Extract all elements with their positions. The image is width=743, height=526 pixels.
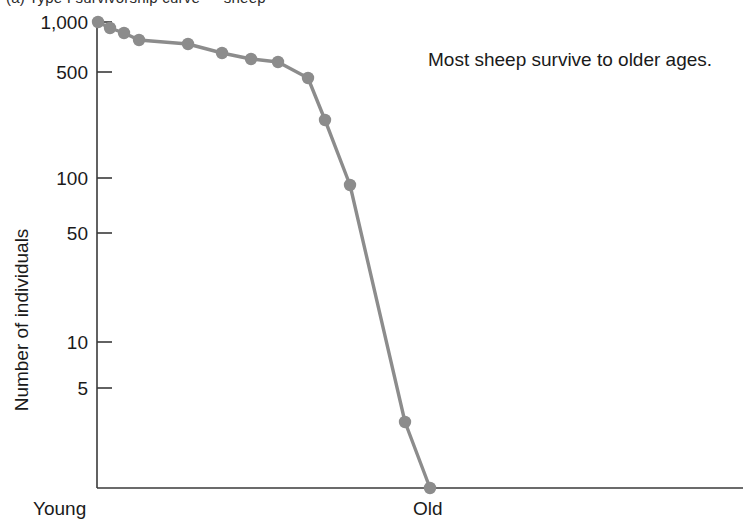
data-point: [118, 27, 130, 39]
survivorship-curve-figure: (a) Type I survivorship curve — sheep 1,…: [0, 0, 743, 526]
data-point: [424, 482, 436, 494]
data-point: [319, 114, 331, 126]
y-axis-title: Number of individuals: [11, 229, 32, 412]
x-label-young: Young: [33, 498, 86, 519]
y-tick-label-50: 50: [67, 223, 88, 244]
survivorship-data-markers: [92, 16, 436, 494]
data-point: [216, 47, 228, 59]
data-point: [104, 22, 116, 34]
data-point: [399, 416, 411, 428]
data-point: [133, 34, 145, 46]
data-point: [344, 179, 356, 191]
y-tick-label-10: 10: [67, 332, 88, 353]
y-tick-label-100: 100: [56, 168, 88, 189]
y-tick-label-5: 5: [77, 378, 88, 399]
data-point: [245, 53, 257, 65]
y-tick-marks: [97, 22, 112, 388]
chart-annotation: Most sheep survive to older ages.: [428, 49, 712, 70]
data-point: [182, 38, 194, 50]
x-label-old: Old: [413, 498, 443, 519]
survivorship-data-line: [98, 22, 430, 488]
data-point: [302, 72, 314, 84]
data-point: [272, 56, 284, 68]
chart-plot-area: 1,000 500 100 50 10 5 Number of individu…: [0, 0, 743, 526]
y-tick-label-500: 500: [56, 62, 88, 83]
y-tick-label-1000: 1,000: [40, 12, 88, 33]
data-point: [92, 16, 104, 28]
